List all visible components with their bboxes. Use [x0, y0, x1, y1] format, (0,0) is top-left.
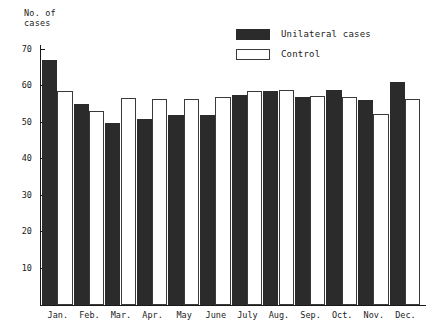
- bar-control: [279, 90, 294, 305]
- bar-control: [405, 99, 420, 306]
- bar-control: [310, 96, 325, 305]
- y-tick-label: 20: [10, 227, 32, 236]
- y-tick-label: 50: [10, 118, 32, 127]
- bar-unilateral-cases: [105, 123, 120, 305]
- x-tick-label: Dec.: [386, 310, 426, 320]
- y-tick-label: 10: [10, 264, 32, 273]
- legend-item-unilateral-cases: Unilateral cases: [236, 26, 371, 43]
- bar-unilateral-cases: [168, 115, 183, 305]
- bar-unilateral-cases: [42, 60, 57, 305]
- bar-unilateral-cases: [137, 119, 152, 305]
- legend-swatch-open-icon: [236, 49, 270, 60]
- bar-control: [373, 114, 388, 305]
- bar-chart: No. ofcases 10203040506070 Jan.Feb.Mar.A…: [0, 0, 432, 335]
- y-tick-label: 60: [10, 81, 32, 90]
- legend-label-control: Control: [281, 49, 320, 60]
- bar-control: [121, 98, 136, 305]
- legend-label-unilateral-cases: Unilateral cases: [281, 29, 371, 40]
- y-tick-label: 40: [10, 154, 32, 163]
- bar-control: [152, 99, 167, 306]
- bar-control: [57, 91, 72, 305]
- bar-control: [247, 91, 262, 305]
- bar-unilateral-cases: [390, 82, 405, 305]
- bar-unilateral-cases: [232, 95, 247, 305]
- bar-control: [89, 111, 104, 305]
- bar-unilateral-cases: [358, 100, 373, 305]
- bar-unilateral-cases: [295, 97, 310, 305]
- legend-item-control: Control: [236, 46, 371, 63]
- bar-unilateral-cases: [326, 90, 341, 305]
- y-tick-label: 30: [10, 191, 32, 200]
- bar-control: [342, 97, 357, 305]
- y-tick-label: 70: [10, 45, 32, 54]
- chart-legend: Unilateral cases Control: [236, 26, 371, 66]
- bar-control: [215, 97, 230, 305]
- bar-unilateral-cases: [200, 115, 215, 305]
- bar-unilateral-cases: [74, 104, 89, 305]
- bar-control: [184, 99, 199, 306]
- bar-unilateral-cases: [263, 91, 278, 305]
- legend-swatch-filled-icon: [236, 29, 270, 40]
